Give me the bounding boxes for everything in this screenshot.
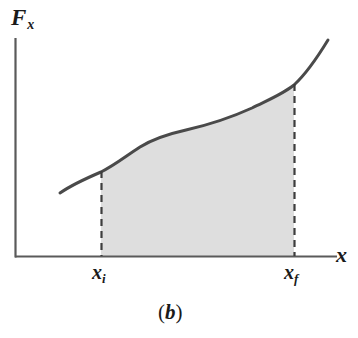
x-tick-label-xi-subscript: i xyxy=(102,271,106,286)
y-axis-label: Fx xyxy=(11,6,34,32)
y-axis-label-symbol: F xyxy=(11,5,26,30)
x-axis-label: x xyxy=(336,244,347,266)
x-tick-label-xf-subscript: f xyxy=(294,271,298,286)
x-tick-label-xf-symbol: x xyxy=(284,261,294,283)
x-tick-label-xi: xi xyxy=(92,262,106,285)
x-tick-label-xf: xf xyxy=(284,262,298,285)
figure-caption: (b) xyxy=(158,302,183,323)
y-axis-label-subscript: x xyxy=(26,17,34,32)
caption-paren-open: ( xyxy=(158,300,165,324)
caption-letter: b xyxy=(165,300,176,324)
work-area-shading xyxy=(101,85,294,257)
x-tick-label-xi-symbol: x xyxy=(92,261,102,283)
caption-paren-close: ) xyxy=(176,300,183,324)
plot-canvas xyxy=(0,0,358,338)
force-vs-position-figure: Fx x xi xf (b) xyxy=(0,0,358,338)
